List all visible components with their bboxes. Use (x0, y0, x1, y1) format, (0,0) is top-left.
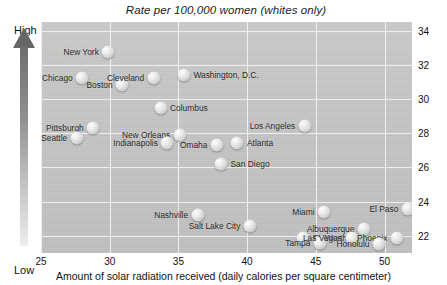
data-point-marker (147, 72, 160, 85)
x-axis-tick-label: 40 (242, 256, 253, 267)
data-point-label: Honolulu (336, 239, 369, 249)
x-axis-tick-label: 35 (173, 256, 184, 267)
data-point-marker (243, 219, 256, 232)
gridline-horizontal (41, 99, 412, 100)
data-point-label: Nashville (154, 210, 188, 220)
data-point-marker (102, 45, 115, 58)
x-axis-tick-label: 30 (104, 256, 115, 267)
arrow-head-icon (13, 28, 35, 48)
data-point-label: Miami (292, 207, 314, 217)
scatter-chart-figure: Rate per 100,000 women (whites only) Hig… (0, 0, 447, 285)
chart-title: Rate per 100,000 women (whites only) (40, 4, 412, 16)
y-axis-tick-label: 28 (418, 128, 429, 139)
y-axis-tick-label: 24 (418, 196, 429, 207)
data-point-label: Cleveland (107, 73, 144, 83)
x-axis-tick-label: 25 (35, 256, 46, 267)
data-point-marker (87, 122, 100, 135)
gridline-horizontal (41, 167, 412, 168)
data-point-marker (401, 202, 412, 215)
data-point-marker (298, 120, 311, 133)
data-point-marker (318, 205, 331, 218)
gridline-horizontal (41, 31, 412, 32)
data-point-label: Salt Lake City (189, 221, 241, 231)
y-axis-tick-label: 30 (418, 94, 429, 105)
data-point-label: Seattle (41, 133, 67, 143)
gridline-horizontal (41, 65, 412, 66)
data-point-label: New York (63, 47, 98, 57)
data-point-label: Chicago (42, 73, 73, 83)
x-axis-tick-label: 45 (310, 256, 321, 267)
x-axis-tick-label: 50 (379, 256, 390, 267)
data-point-label: Los Angeles (250, 121, 296, 131)
gridline-horizontal (41, 202, 412, 203)
y-axis-tick-label: 34 (418, 25, 429, 36)
data-point-marker (215, 158, 228, 171)
data-point-marker (231, 137, 244, 150)
gridline-vertical (316, 22, 317, 253)
data-point-marker (154, 101, 167, 114)
y-axis-tick-label: 22 (418, 230, 429, 241)
x-axis-label: Amount of solar radiation received (dail… (0, 270, 447, 282)
data-point-marker (390, 231, 403, 244)
data-point-label: Indianapolis (113, 138, 158, 148)
y-axis-tick-label: 26 (418, 162, 429, 173)
data-point-label: San Diego (231, 159, 270, 169)
intensity-arrow-axis: High Low (12, 22, 36, 252)
data-point-label: Atlanta (247, 138, 273, 148)
data-point-marker (373, 238, 386, 251)
data-point-marker (177, 69, 190, 82)
data-point-label: Omaha (180, 140, 207, 150)
gridline-vertical (385, 22, 386, 253)
data-point-marker (70, 132, 83, 145)
y-axis-tick-label: 32 (418, 59, 429, 70)
data-point-marker (210, 139, 223, 152)
data-point-label: Washington, D.C. (193, 70, 258, 80)
arrow-shaft (20, 46, 28, 246)
data-point-label: Columbus (170, 103, 208, 113)
plot-area: New YorkChicagoBostonClevelandWashington… (41, 22, 412, 253)
data-point-marker (161, 137, 174, 150)
data-point-label: El Paso (370, 204, 399, 214)
